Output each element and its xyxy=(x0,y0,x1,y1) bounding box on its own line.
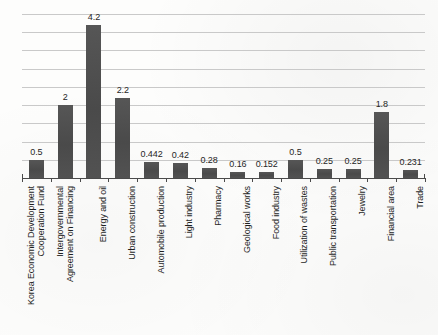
gridline xyxy=(22,50,425,51)
bar xyxy=(346,169,361,178)
category-label: Trade xyxy=(415,186,425,209)
category-label: Light industry xyxy=(184,186,194,238)
gridline xyxy=(22,142,425,143)
value-label: 4.2 xyxy=(88,12,100,22)
bar xyxy=(288,160,303,178)
value-label: 0.25 xyxy=(344,156,361,166)
x-axis-tick xyxy=(367,178,368,182)
x-axis-tick xyxy=(339,178,340,182)
x-axis-tick xyxy=(22,178,23,182)
bar xyxy=(86,25,101,178)
bar xyxy=(403,170,418,178)
x-axis-tick xyxy=(425,178,426,182)
x-axis-tick xyxy=(108,178,109,182)
gridline xyxy=(22,32,425,33)
category-label: Korea Economic DevelopmentCooperation Fu… xyxy=(26,186,46,305)
value-label: 0.152 xyxy=(256,159,278,169)
bar xyxy=(374,112,389,178)
category-label: Jewelry xyxy=(357,186,367,216)
value-label: 0.442 xyxy=(141,149,163,159)
bar xyxy=(173,163,188,178)
category-label: Energy and oil xyxy=(98,186,108,242)
category-label: Utilization of wastes xyxy=(299,186,309,263)
value-label: 0.25 xyxy=(316,156,333,166)
gridline xyxy=(22,14,425,15)
category-label: Food industry xyxy=(271,186,281,239)
gridline xyxy=(22,69,425,70)
x-axis-tick xyxy=(396,178,397,182)
category-label: Geological works xyxy=(242,186,252,253)
gridline xyxy=(22,160,425,161)
value-label: 0.28 xyxy=(201,155,218,165)
value-label: 0.16 xyxy=(229,159,246,169)
x-axis-tick xyxy=(137,178,138,182)
x-axis-tick xyxy=(310,178,311,182)
bar xyxy=(115,98,130,178)
category-label: Pharmacy xyxy=(213,186,223,226)
value-label: 0.5 xyxy=(30,147,42,157)
x-axis-tick xyxy=(281,178,282,182)
category-label: IntergovernmentalAgreement on Financing xyxy=(55,186,75,282)
bar xyxy=(58,105,73,178)
value-label: 0.231 xyxy=(400,157,422,167)
x-axis-tick xyxy=(51,178,52,182)
gridline xyxy=(22,87,425,88)
value-label: 2.2 xyxy=(117,85,129,95)
value-label: 0.5 xyxy=(289,147,301,157)
category-label: Public transportation xyxy=(328,186,338,266)
plot-area xyxy=(22,14,425,178)
category-label: Automobile production xyxy=(156,186,166,273)
gridline xyxy=(22,123,425,124)
value-label: 2 xyxy=(63,92,68,102)
gridline xyxy=(22,105,425,106)
x-axis-tick xyxy=(224,178,225,182)
x-axis-tick xyxy=(252,178,253,182)
category-label: Financial area xyxy=(386,186,396,241)
value-label: 0.42 xyxy=(172,150,189,160)
x-axis-tick xyxy=(80,178,81,182)
x-axis-tick xyxy=(166,178,167,182)
bar xyxy=(29,160,44,178)
bar xyxy=(317,169,332,178)
x-axis-tick xyxy=(195,178,196,182)
bar-chart-figure: 0.524.22.20.4420.420.280.160.1520.50.250… xyxy=(0,0,438,335)
category-label: Urban construction xyxy=(127,186,137,260)
value-label: 1.8 xyxy=(376,99,388,109)
bar xyxy=(202,168,217,178)
bar xyxy=(144,162,159,178)
